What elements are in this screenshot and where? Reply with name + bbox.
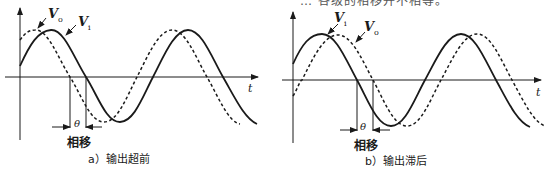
theta-label-a: θ bbox=[74, 118, 80, 129]
caption-b: b）输出滞后 bbox=[365, 152, 427, 168]
vi-leader-a bbox=[66, 25, 76, 35]
vo-label-b: Vo bbox=[364, 19, 379, 37]
caption-a: a）输出超前 bbox=[88, 150, 150, 166]
vo-label-a: Vo bbox=[48, 6, 63, 24]
time-axis-label-a: t bbox=[248, 82, 252, 95]
panel-b bbox=[282, 12, 545, 143]
phase-shift-label-b: 相移 bbox=[354, 136, 378, 153]
vo-leader-a bbox=[38, 18, 46, 28]
time-axis-label-b: t bbox=[536, 86, 540, 99]
vi-label-b: Vi bbox=[334, 10, 347, 28]
panel-a bbox=[5, 8, 258, 140]
vi-label-a: Vi bbox=[78, 14, 91, 32]
theta-label-b: θ bbox=[360, 121, 366, 132]
phase-shift-label-a: 相移 bbox=[67, 133, 91, 150]
